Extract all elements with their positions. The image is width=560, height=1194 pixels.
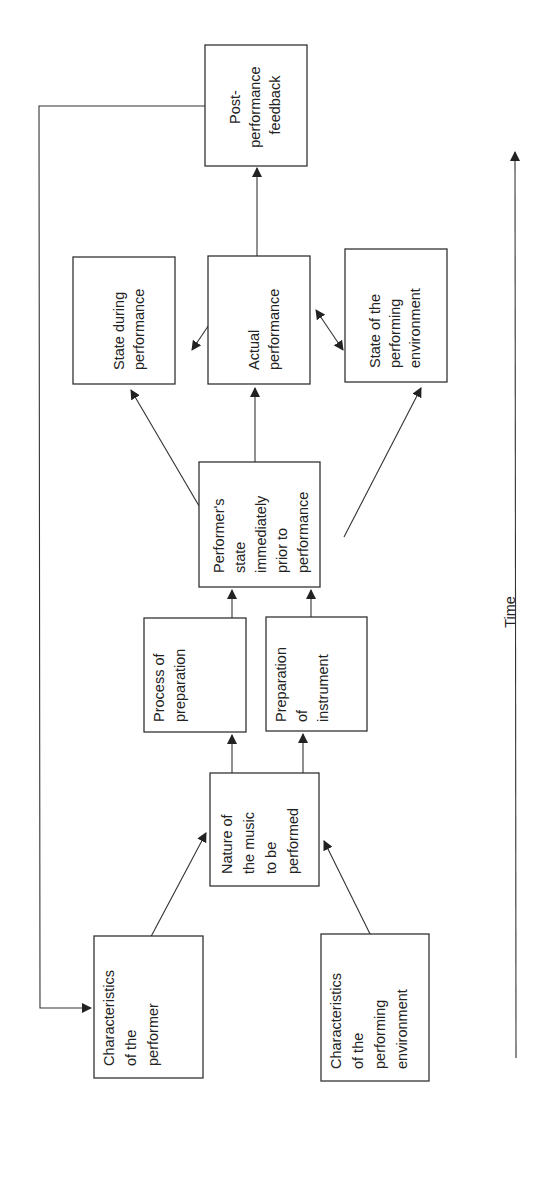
svg-text:Performer's state: Performer's state immediately prior to p…	[211, 492, 311, 573]
box-actual-performance: Actual performance	[208, 256, 310, 384]
arrow-char-env-to-nature	[324, 841, 376, 946]
box-process-of-preparation: Process of preparation	[144, 618, 246, 732]
arrow-char-performer-to-nature	[146, 833, 206, 946]
box-preparation-of-instrument: Preparation of instrument	[266, 617, 367, 731]
time-axis-label: Time	[502, 596, 518, 628]
box-characteristics-of-performer: Characteristics of the performer	[94, 936, 203, 1078]
box-post-performance-feedback: Post- performance feedback	[205, 45, 307, 166]
performance-process-diagram: Post- performance feedback State during …	[0, 0, 560, 1194]
box-performer-state-prior: Performer's state immediately prior to p…	[199, 462, 320, 587]
svg-text:State of the performing: State of the performing environment	[367, 288, 423, 368]
box-state-during-performance: State during performance	[73, 257, 175, 384]
arrow-actual-state-env	[316, 310, 343, 350]
feedback-loop-line	[39, 106, 205, 1008]
box-nature-of-music: Nature of the music to be performed	[210, 773, 319, 886]
box-characteristics-of-environment: Characteristics of the performing enviro…	[321, 934, 429, 1081]
box-state-of-performing-environment: State of the performing environment	[345, 249, 447, 382]
arrow-prior-to-state-env	[344, 388, 421, 537]
